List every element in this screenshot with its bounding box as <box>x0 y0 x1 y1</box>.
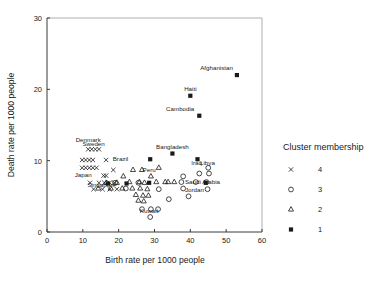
point-circle-marker <box>156 187 161 192</box>
annotation-bangladesh: Bangladesh <box>156 143 189 150</box>
point-circle-marker <box>179 180 184 185</box>
point-triangle-marker <box>142 180 147 185</box>
point-circle-marker <box>206 165 211 170</box>
point-circle-marker <box>148 215 153 220</box>
legend-triangle-marker <box>288 207 293 211</box>
annotation-libya: Libya <box>200 159 215 166</box>
point-triangle-marker <box>141 198 146 202</box>
point-square-marker <box>147 181 151 185</box>
point-square-marker <box>197 114 201 118</box>
point-triangle-marker <box>137 179 142 183</box>
x-tick-label: 0 <box>45 236 49 245</box>
legend-item-1[interactable]: 1 <box>289 225 322 234</box>
y-tick-label: 20 <box>34 85 42 94</box>
annotation-sweden: Sweden <box>82 140 105 147</box>
point-triangle-marker <box>141 193 146 198</box>
point-x-marker <box>101 173 105 177</box>
annotation-saudi-arabia: Saudi Arabia <box>185 178 221 185</box>
plot-frame <box>47 18 262 232</box>
point-x-marker <box>91 158 95 162</box>
annotation-singapore: Singapore <box>87 181 116 188</box>
annotation-haiti: Haiti <box>184 85 196 92</box>
legend-circle-marker <box>289 187 294 192</box>
x-tick-label: 10 <box>79 236 87 245</box>
x-tick-label: 60 <box>258 236 266 245</box>
legend: Cluster membership4321 <box>283 142 364 234</box>
plot-canvas: 01020304050600102030 AfghanistanHaitiCam… <box>0 0 370 285</box>
series-cluster-1 <box>106 73 239 186</box>
x-axis-title: Birth rate per 1000 people <box>105 255 205 265</box>
x-tick-label: 30 <box>150 236 158 245</box>
x-tick-label: 20 <box>114 236 122 245</box>
legend-item-2[interactable]: 2 <box>288 205 322 214</box>
annotation-peru: Peru <box>143 166 157 173</box>
annotation-afghanistan: Afghanistan <box>200 64 233 71</box>
point-circle-marker <box>186 194 191 199</box>
point-square-marker <box>148 157 152 161</box>
y-tick-label: 0 <box>38 228 42 237</box>
point-triangle-marker <box>148 173 153 178</box>
axis-ticks <box>47 18 262 232</box>
annotation-kuwait: Kuwait <box>140 207 159 214</box>
point-square-marker <box>170 151 174 155</box>
legend-title: Cluster membership <box>283 142 364 152</box>
legend-label-3: 3 <box>318 185 322 194</box>
legend-item-3[interactable]: 3 <box>289 185 323 194</box>
legend-label-4: 4 <box>318 165 322 174</box>
y-tick-label: 10 <box>34 157 42 166</box>
point-triangle-marker <box>146 193 151 198</box>
point-triangle-marker <box>133 192 138 196</box>
point-square-marker <box>188 94 192 98</box>
point-annotations: AfghanistanHaitiCambodiaBangladeshDenmar… <box>75 64 234 214</box>
point-circle-marker <box>197 171 202 176</box>
point-triangle-marker <box>172 179 177 183</box>
annotation-brazil: Brazil <box>113 155 128 162</box>
legend-label-2: 2 <box>318 205 322 214</box>
point-x-marker <box>94 166 98 170</box>
point-triangle-marker <box>154 179 159 183</box>
scatter-plot-figure: 01020304050600102030 AfghanistanHaitiCam… <box>0 0 370 285</box>
legend-x-marker <box>289 167 293 171</box>
point-circle-marker <box>166 197 171 202</box>
point-square-marker <box>235 73 239 77</box>
point-x-marker <box>104 173 108 177</box>
point-triangle-marker <box>156 165 161 170</box>
annotation-japan: Japan <box>75 171 92 178</box>
annotation-cambodia: Cambodia <box>166 105 195 112</box>
x-tick-label: 50 <box>222 236 230 245</box>
point-x-marker <box>104 158 108 162</box>
point-triangle-marker <box>130 167 135 171</box>
point-triangle-marker <box>136 198 141 203</box>
point-x-marker <box>97 147 101 151</box>
legend-label-1: 1 <box>318 225 322 234</box>
point-x-marker <box>111 168 115 172</box>
point-triangle-marker <box>130 186 135 190</box>
annotation-jordan: Jordan <box>185 186 204 193</box>
x-tick-label: 40 <box>186 236 194 245</box>
legend-square-marker <box>289 227 293 231</box>
point-circle-marker <box>207 171 212 176</box>
legend-item-4[interactable]: 4 <box>289 165 322 174</box>
point-circle-marker <box>205 187 210 192</box>
point-triangle-marker <box>138 186 143 190</box>
y-tick-label: 30 <box>34 14 42 23</box>
y-axis-title: Death rate per 1000 people <box>6 72 16 177</box>
point-triangle-marker <box>145 186 150 190</box>
point-triangle-marker <box>121 173 126 178</box>
